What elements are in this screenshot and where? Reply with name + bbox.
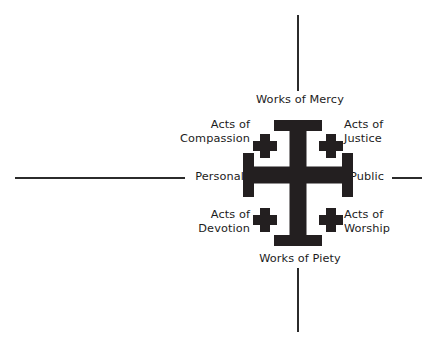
cross-bar-top: [274, 120, 322, 131]
small-cross-top-right: [319, 134, 343, 158]
jerusalem-cross-icon: [243, 120, 353, 246]
quadrant-diagram: Works of Mercy Works of Piety Personal P…: [0, 0, 431, 346]
axis-label-public: Public: [350, 170, 431, 184]
quadrant-label-acts-of-compassion: Acts of Compassion: [160, 118, 250, 145]
cross-bar-bottom: [274, 235, 322, 246]
axis-label-works-of-mercy: Works of Mercy: [230, 93, 370, 107]
quadrant-label-acts-of-justice: Acts of Justice: [344, 118, 431, 145]
small-cross-top-left: [253, 134, 277, 158]
axis-line-top: [297, 15, 299, 91]
quadrant-label-acts-of-worship: Acts of Worship: [344, 208, 431, 235]
axis-line-bottom: [297, 268, 299, 332]
jerusalem-cross-svg: [243, 120, 353, 246]
cross-bar-left: [243, 153, 254, 197]
cross-bar-right: [342, 153, 353, 197]
small-cross-bottom-left: [253, 208, 277, 232]
main-cross-path: [243, 120, 353, 246]
axis-label-works-of-piety: Works of Piety: [230, 252, 370, 266]
axis-label-personal: Personal: [150, 170, 244, 184]
small-cross-bottom-right: [319, 208, 343, 232]
quadrant-label-acts-of-devotion: Acts of Devotion: [160, 208, 250, 235]
